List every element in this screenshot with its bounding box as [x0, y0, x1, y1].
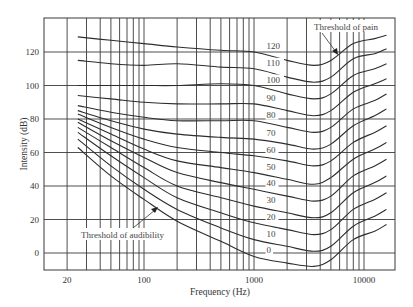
curve-label: 40 — [267, 178, 277, 188]
y-tick-label: 60 — [30, 148, 40, 158]
y-tick-label: 120 — [26, 47, 40, 57]
curve-label: 50 — [267, 162, 277, 172]
curve-label: 10 — [267, 229, 277, 239]
y-tick-label: 100 — [26, 81, 40, 91]
curve-label: 70 — [267, 128, 277, 138]
curve-120-phon — [78, 35, 387, 65]
curve-label: 90 — [267, 93, 277, 103]
x-tick-label: 1000 — [245, 275, 264, 285]
curve-label: 20 — [267, 212, 277, 222]
curve-label: 100 — [267, 75, 281, 85]
curve-label: 30 — [267, 195, 277, 205]
y-axis-title: Intensity (dB) — [19, 117, 30, 170]
arrow-line — [322, 33, 336, 52]
equal-loudness-chart: 0102030405060708090100110120 02040608010… — [0, 0, 413, 307]
y-tick-label: 40 — [30, 181, 40, 191]
x-axis-title: Frequency (Hz) — [190, 287, 250, 298]
y-tick-label: 20 — [30, 215, 40, 225]
arrow-head-icon — [332, 48, 338, 55]
curve-labels: 0102030405060708090100110120 — [266, 41, 285, 255]
curve-label: 80 — [267, 110, 277, 120]
threshold-of-audibility-label: Threshold of audibility — [81, 230, 164, 240]
x-tick-label: 10000 — [353, 275, 376, 285]
curve-50-phon — [78, 119, 387, 184]
curve-label: 60 — [267, 145, 277, 155]
x-tick-label: 20 — [63, 275, 73, 285]
threshold-of-pain-label: Threshold of pain — [314, 22, 378, 32]
curve-label: 110 — [267, 58, 281, 68]
curve-label: 120 — [267, 41, 281, 51]
curve-30-phon — [78, 127, 387, 217]
y-tick-label: 80 — [30, 114, 40, 124]
curve-80-phon — [78, 94, 387, 132]
curve-label: 0 — [267, 245, 272, 255]
annotation-threshold-of-audibility: Threshold of audibility — [79, 207, 165, 240]
x-tick-label: 100 — [137, 275, 151, 285]
x-tick-labels: 20100100010000 — [63, 275, 376, 285]
y-tick-label: 0 — [35, 248, 40, 258]
curve-40-phon — [78, 122, 387, 201]
